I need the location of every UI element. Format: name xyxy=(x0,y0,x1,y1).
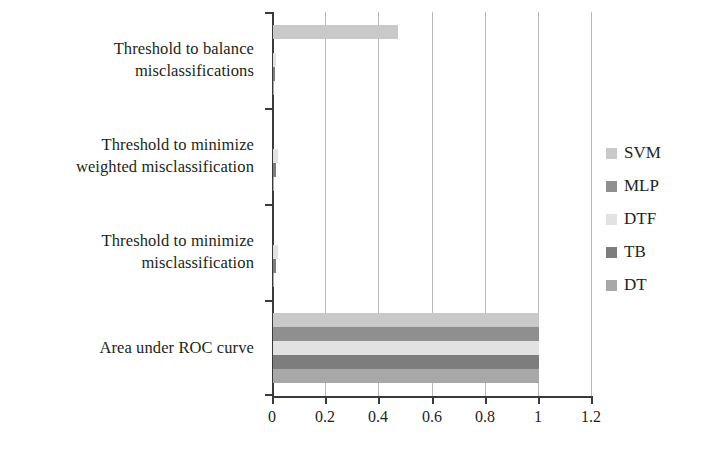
category-label-line: misclassification xyxy=(0,252,254,274)
x-axis-tick xyxy=(378,396,380,404)
category-label: Threshold to minimizemisclassification xyxy=(0,230,254,274)
legend-item-dt[interactable]: DT xyxy=(606,275,647,295)
x-axis-tick xyxy=(432,396,434,404)
category-label-line: Threshold to minimize xyxy=(0,230,254,252)
bar-dt xyxy=(273,273,274,287)
category-label-line: Area under ROC curve xyxy=(0,337,254,359)
bar-tb xyxy=(273,259,276,273)
bar-dtf xyxy=(273,341,539,355)
legend-item-svm[interactable]: SVM xyxy=(606,143,661,163)
category-label-line: weighted misclassification xyxy=(0,156,254,178)
x-axis-tick xyxy=(485,396,487,404)
category-label: Threshold to balancemisclassifications xyxy=(0,38,254,82)
x-axis-tick-label: 0.4 xyxy=(350,408,406,426)
gridline xyxy=(591,12,592,396)
x-axis-tick-label: 0.6 xyxy=(404,408,460,426)
bar-dtf xyxy=(273,149,278,163)
x-axis-tick xyxy=(272,396,274,404)
legend-swatch-icon xyxy=(606,181,617,192)
bar-tb xyxy=(273,355,539,369)
legend-swatch-icon xyxy=(606,247,617,258)
x-axis-tick xyxy=(591,396,593,404)
legend-item-mlp[interactable]: MLP xyxy=(606,176,659,196)
legend-swatch-icon xyxy=(606,148,617,159)
x-axis-tick-label: 0.8 xyxy=(457,408,513,426)
bar-svm xyxy=(273,25,398,39)
x-axis-tick xyxy=(325,396,327,404)
x-axis-tick-label: 1.2 xyxy=(563,408,619,426)
bar-tb xyxy=(273,163,276,177)
bar-tb xyxy=(273,67,275,81)
category-label-line: Threshold to minimize xyxy=(0,134,254,156)
x-axis-tick xyxy=(538,396,540,404)
category-axis-labels: Threshold to balancemisclassificationsTh… xyxy=(0,12,262,396)
plot-area xyxy=(272,12,538,396)
legend-label: TB xyxy=(624,242,646,262)
legend-swatch-icon xyxy=(606,280,617,291)
bar-dtf xyxy=(273,245,278,259)
category-label: Threshold to minimizeweighted misclassif… xyxy=(0,134,254,178)
bar-dt xyxy=(273,369,539,383)
category-label-line: Threshold to balance xyxy=(0,38,254,60)
legend-label: DT xyxy=(624,275,647,295)
legend-label: SVM xyxy=(624,143,661,163)
legend-label: DTF xyxy=(624,209,656,229)
legend-item-tb[interactable]: TB xyxy=(606,242,646,262)
bar-dtf xyxy=(273,53,276,67)
legend-item-dtf[interactable]: DTF xyxy=(606,209,656,229)
bar-dt xyxy=(273,177,274,191)
legend-swatch-icon xyxy=(606,214,617,225)
x-axis-tick-label: 1 xyxy=(510,408,566,426)
category-label-line: misclassifications xyxy=(0,60,254,82)
x-axis-tick-label: 0.2 xyxy=(297,408,353,426)
x-axis-tick-label: 0 xyxy=(244,408,300,426)
bar-chart: Threshold to balancemisclassificationsTh… xyxy=(0,0,725,467)
bar-mlp xyxy=(273,327,539,341)
legend-label: MLP xyxy=(624,176,659,196)
bar-svm xyxy=(273,313,539,327)
bar-dt xyxy=(273,81,274,95)
category-label: Area under ROC curve xyxy=(0,337,254,359)
